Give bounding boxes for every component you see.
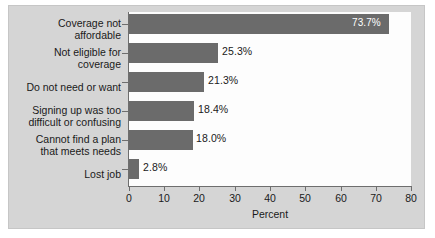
x-axis-tick-label: 30	[220, 192, 250, 204]
x-axis-tick	[305, 187, 306, 191]
bar-coverage-not-affordable	[129, 14, 389, 34]
bar-row: 2.8%	[129, 159, 411, 179]
y-axis-tick	[122, 82, 129, 83]
category-label-not-eligible-for-coverage: Not eligible for coverage	[3, 47, 121, 70]
bar-row: 21.3%	[129, 72, 411, 92]
x-axis-tick	[411, 187, 412, 191]
x-axis-title: Percent	[129, 208, 411, 220]
y-axis-tick	[122, 111, 129, 112]
bar-value-label: 73.7%	[352, 17, 381, 28]
x-axis-tick	[270, 187, 271, 191]
x-axis-tick	[199, 187, 200, 191]
x-axis-tick-label: 10	[149, 192, 179, 204]
bar-not-eligible-for-coverage	[129, 43, 218, 63]
bar-signing-up-too-difficult	[129, 101, 194, 121]
category-label-do-not-need-or-want: Do not need or want	[3, 82, 121, 94]
x-axis-tick-label: 0	[114, 192, 144, 204]
y-axis-tick	[122, 53, 129, 54]
bar-value-label: 18.0%	[196, 132, 226, 144]
y-axis-tick	[122, 140, 129, 141]
category-label-lost-job: Lost job	[3, 169, 121, 181]
x-axis-tick-label: 40	[255, 192, 285, 204]
x-axis-tick	[235, 187, 236, 191]
bar-lost-job	[129, 159, 139, 179]
bar-row: 18.4%	[129, 101, 411, 121]
bar-row: 18.0%	[129, 130, 411, 150]
x-axis-tick-label: 20	[184, 192, 214, 204]
x-axis-tick-label: 50	[290, 192, 320, 204]
bar-value-label: 18.4%	[198, 103, 228, 115]
x-axis-tick-label: 60	[326, 192, 356, 204]
chart-figure: Coverage not affordable Not eligible for…	[0, 0, 435, 238]
bar-value-label: 21.3%	[208, 74, 238, 86]
bar-do-not-need-or-want	[129, 72, 204, 92]
x-axis-tick	[129, 187, 130, 191]
bar-cannot-find-a-plan	[129, 130, 193, 150]
bar-value-label: 25.3%	[222, 45, 252, 57]
x-axis-tick-label: 70	[361, 192, 391, 204]
y-axis-tick	[122, 24, 129, 25]
x-axis-tick	[341, 187, 342, 191]
bar-value-label: 2.8%	[143, 161, 167, 173]
category-label-signing-up-too-difficult: Signing up was too difficult or confusin…	[3, 105, 121, 128]
x-axis-tick	[376, 187, 377, 191]
category-label-cannot-find-a-plan: Cannot find a plan that meets needs	[3, 134, 121, 157]
bar-row: 25.3%	[129, 43, 411, 63]
x-axis-tick	[164, 187, 165, 191]
category-label-coverage-not-affordable: Coverage not affordable	[3, 18, 121, 41]
bar-row: 73.7%	[129, 14, 411, 34]
y-axis-tick	[122, 169, 129, 170]
x-axis-tick-label: 80	[396, 192, 426, 204]
